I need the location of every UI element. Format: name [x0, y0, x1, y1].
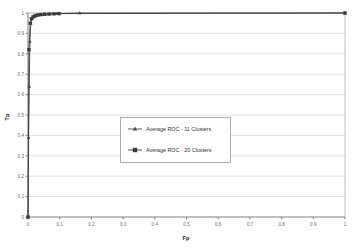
x-axis-title: Fp [183, 235, 190, 241]
x-tick-label: 0.8 [278, 222, 285, 227]
data-point-marker [36, 13, 39, 16]
y-tick-label: 0.6 [18, 92, 25, 97]
data-point-marker [39, 13, 42, 16]
legend-label-11-clusters: Average ROC - 11 Clusters [146, 126, 211, 132]
x-tick-label: 1 [344, 222, 347, 227]
roc-chart: 00.10.20.30.40.50.60.70.80.91 00.10.20.3… [0, 0, 361, 247]
x-tick-label: 0.3 [120, 222, 127, 227]
data-point-marker [57, 12, 60, 15]
y-tick-label: 0.3 [18, 154, 25, 159]
y-axis-title: Tp [4, 113, 10, 120]
data-point-marker [29, 22, 32, 25]
data-point-marker [343, 11, 346, 14]
legend-box [121, 118, 231, 163]
y-tick-label: 0.8 [18, 52, 25, 57]
y-tick-label: 0 [21, 215, 24, 220]
y-tick-label: 0.7 [18, 72, 25, 77]
data-point-marker [47, 12, 50, 15]
x-tick-label: 0.5 [183, 222, 190, 227]
y-tick-label: 0.2 [18, 174, 25, 179]
x-tick-label: 0.1 [57, 222, 64, 227]
x-tick-label: 0.9 [310, 222, 317, 227]
x-tick-label: 0.6 [215, 222, 222, 227]
y-tick-label: 0.4 [18, 133, 25, 138]
data-point-marker [52, 12, 55, 15]
x-tick-label: 0.7 [247, 222, 254, 227]
y-tick-label: 0.5 [18, 113, 25, 118]
y-tick-label: 1 [21, 11, 24, 16]
x-tick-label: 0.4 [152, 222, 159, 227]
data-point-marker [26, 215, 29, 218]
chart-canvas: 00.10.20.30.40.50.60.70.80.91 00.10.20.3… [0, 0, 361, 247]
data-point-marker [27, 48, 30, 51]
y-tick-label: 0.9 [18, 31, 25, 36]
x-tick-label: 0 [27, 222, 30, 227]
square-marker-icon [133, 148, 137, 152]
x-tick-label: 0.2 [88, 222, 95, 227]
data-point-marker [43, 13, 46, 16]
chart-legend[interactable]: Average ROC - 11 Clusters Average ROC - … [121, 118, 231, 163]
legend-label-20-clusters: Average ROC - 20 Clusters [146, 147, 212, 153]
y-tick-label: 0.1 [18, 194, 25, 199]
